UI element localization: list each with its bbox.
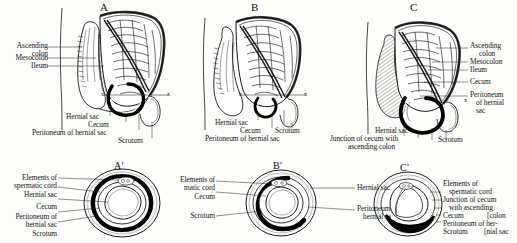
label-a-ileum: Ileum	[0, 62, 48, 70]
section-mark-c: x	[464, 97, 467, 103]
label-bp-hernial-sac: Hernial sac	[357, 184, 390, 192]
panel-letter-c-prime: C′	[400, 162, 409, 173]
section-mark-a-right: x	[167, 91, 170, 97]
label-bp-elements-2: matic cord	[163, 184, 215, 192]
panel-letter-a: A	[100, 1, 108, 13]
label-bp-scrotum: Scrotum	[163, 212, 215, 220]
section-mark-b-right: x	[304, 91, 307, 97]
label-c-junction-2: ascending colon	[348, 143, 395, 151]
panel-letter-b-prime: B′	[273, 160, 282, 171]
label-cp-nial-sac: [nial sac	[484, 228, 508, 236]
panel-letter-a-prime: A′	[114, 160, 124, 171]
section-mark-b-left: x	[239, 91, 242, 97]
label-b-peritoneum: Peritoneum of hernial sac	[205, 135, 279, 143]
label-ap-cecum: Cecum	[0, 203, 57, 211]
label-bp-peritoneum-2: hernial sa	[363, 213, 391, 221]
label-ap-scrotum: Scrotum	[0, 230, 57, 238]
section-mark-a-left: x	[101, 91, 104, 97]
anatomical-plate	[0, 0, 517, 243]
label-c-scrotum: Scrotum	[438, 136, 463, 144]
label-cp-scrotum: Scrotum	[443, 228, 468, 236]
panel-letter-b: B	[251, 1, 259, 13]
label-a-peritoneum: Peritoneum of hernial sac	[32, 129, 106, 137]
label-bp-cecum: Cecum	[163, 193, 215, 201]
label-c-ileum: Ileum	[470, 66, 487, 74]
panel-letter-c: C	[410, 1, 418, 13]
label-ap-peritoneum-2: hernial sac	[0, 221, 57, 229]
label-c-peritoneum-3: sac	[476, 107, 485, 115]
label-a-scrotum: Scrotum	[118, 137, 143, 145]
label-ap-hernial-sac: Hernial sac	[0, 191, 57, 199]
label-c-cecum: Cecum	[470, 78, 491, 86]
label-ap-elements-2: spermatic cord	[0, 182, 57, 190]
